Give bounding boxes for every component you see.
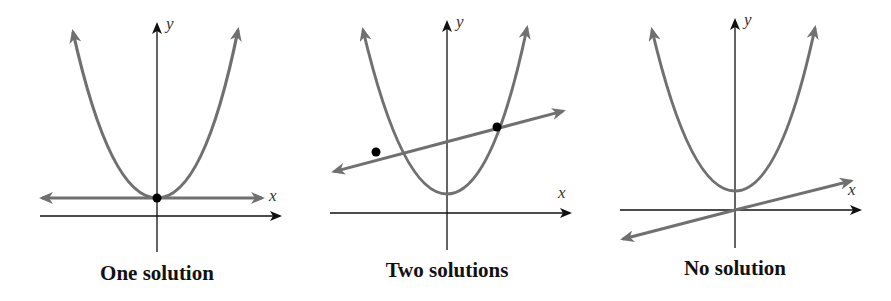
x-axis-label: x <box>848 180 856 200</box>
line-left <box>623 210 735 239</box>
x-axis-label: x <box>269 186 277 206</box>
caption-one-solution: One solution <box>100 261 214 286</box>
secant-line-left <box>334 142 447 172</box>
y-axis-label: y <box>456 12 464 32</box>
parabola-right-arm <box>447 28 527 194</box>
parabola-line-intersection-figure: y x y x y x One solution Two solutions N… <box>0 0 891 301</box>
parabola-right-arm <box>735 28 815 191</box>
caption-no-solution: No solution <box>684 256 786 281</box>
y-axis-label: y <box>744 10 752 30</box>
intersection-point-left <box>372 148 381 157</box>
panel-two-solutions <box>330 22 570 250</box>
parabola-right-arm <box>157 30 238 198</box>
parabola-left-arm <box>652 30 735 191</box>
intersection-point <box>153 194 162 203</box>
parabola-left-arm <box>363 30 447 194</box>
y-axis-label: y <box>166 14 174 34</box>
parabola-left-arm <box>73 32 157 198</box>
intersection-point-right <box>493 123 502 132</box>
caption-two-solutions: Two solutions <box>386 258 509 283</box>
panel-one-solution <box>40 24 280 252</box>
panel-no-solution <box>620 20 860 248</box>
x-axis-label: x <box>558 183 566 203</box>
